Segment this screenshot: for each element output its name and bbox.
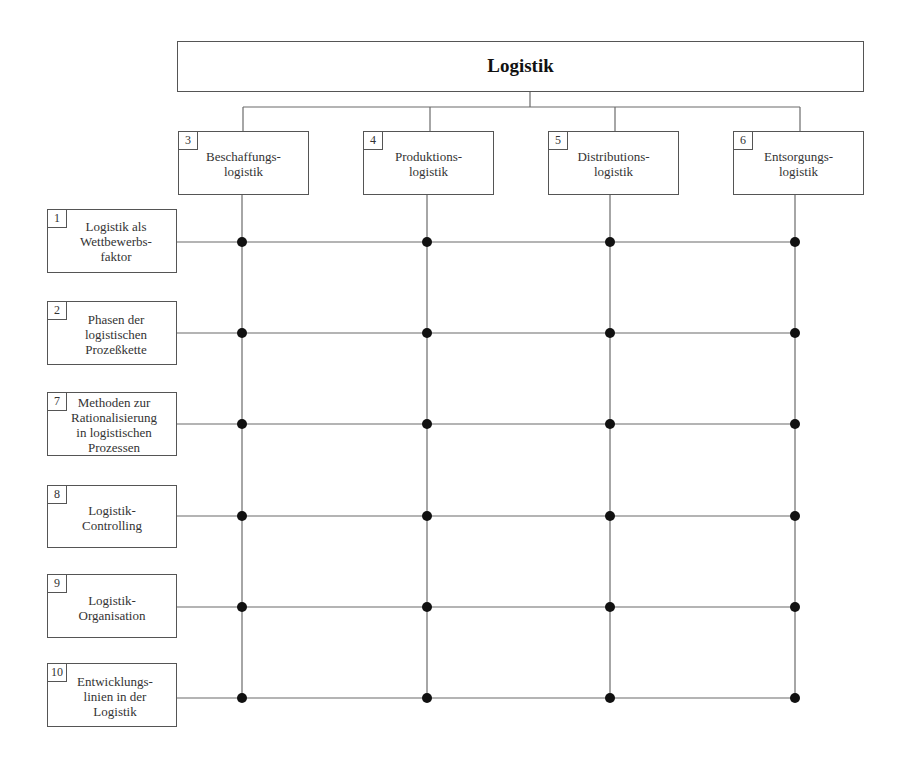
intersection-node-icon — [237, 693, 247, 703]
intersection-node-icon — [422, 693, 432, 703]
intersection-node-icon — [237, 602, 247, 612]
connector-lines — [0, 0, 907, 769]
row-label: Methoden zur Rationalisierung in logisti… — [52, 395, 176, 455]
column-label: Produktions- logistik — [364, 149, 493, 179]
intersection-node-icon — [237, 511, 247, 521]
row-box-controlling: 8 Logistik- Controlling — [47, 485, 177, 548]
row-box-prozesskette: 2 Phasen der logistischen Prozeßkette — [47, 301, 177, 365]
intersection-node-icon — [790, 511, 800, 521]
matrix-grid — [177, 195, 795, 698]
title-label: Logistik — [178, 55, 863, 77]
intersection-node-icon — [790, 419, 800, 429]
intersection-node-icon — [422, 602, 432, 612]
intersection-node-icon — [790, 328, 800, 338]
row-box-rationalisierung: 7 Methoden zur Rationalisierung in logis… — [47, 392, 177, 456]
row-label: Entwicklungs- linien in der Logistik — [54, 674, 176, 719]
intersection-node-icon — [422, 328, 432, 338]
row-number: 8 — [47, 485, 67, 504]
column-box-entsorgungslogistik: 6 Entsorgungs- logistik — [733, 131, 864, 195]
column-number: 6 — [733, 131, 753, 150]
intersection-node-icon — [237, 237, 247, 247]
row-label: Logistik- Organisation — [48, 593, 176, 623]
column-label: Entsorgungs- logistik — [734, 149, 863, 179]
row-number: 9 — [47, 574, 67, 593]
column-box-produktionslogistik: 4 Produktions- logistik — [363, 131, 494, 195]
column-number: 4 — [363, 131, 383, 150]
intersection-node-icon — [422, 511, 432, 521]
row-label: Phasen der logistischen Prozeßkette — [56, 312, 176, 357]
column-number: 5 — [548, 131, 568, 150]
column-label: Distributions- logistik — [549, 149, 678, 179]
intersection-node-icon — [237, 419, 247, 429]
row-box-wettbewerbsfaktor: 1 Logistik als Wettbewerbs- faktor — [47, 209, 177, 273]
row-label: Logistik als Wettbewerbs- faktor — [56, 219, 176, 264]
intersection-node-icon — [605, 237, 615, 247]
row-label: Logistik- Controlling — [48, 503, 176, 533]
intersection-node-icon — [605, 328, 615, 338]
column-box-beschaffungslogistik: 3 Beschaffungs- logistik — [178, 131, 309, 195]
intersection-node-icon — [790, 237, 800, 247]
intersection-node-icon — [605, 602, 615, 612]
intersection-node-icon — [790, 602, 800, 612]
column-label: Beschaffungs- logistik — [179, 149, 308, 179]
intersection-node-icon — [422, 419, 432, 429]
row-box-entwicklungslinien: 10 Entwicklungs- linien in der Logistik — [47, 663, 177, 727]
title-box: Logistik — [177, 41, 864, 92]
logistics-matrix-diagram: Logistik 3 Beschaffungs- logistik 4 Prod… — [0, 0, 907, 769]
intersection-node-icon — [605, 693, 615, 703]
row-box-organisation: 9 Logistik- Organisation — [47, 574, 177, 638]
intersection-node-icon — [237, 328, 247, 338]
intersection-node-icon — [605, 419, 615, 429]
intersection-node-icon — [422, 237, 432, 247]
intersection-node-icon — [605, 511, 615, 521]
matrix-nodes — [237, 237, 800, 703]
column-number: 3 — [178, 131, 198, 150]
column-box-distributionslogistik: 5 Distributions- logistik — [548, 131, 679, 195]
intersection-node-icon — [790, 693, 800, 703]
